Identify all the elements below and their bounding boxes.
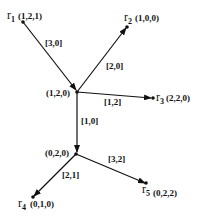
node-label-r3: r3(2,2,0)	[156, 90, 190, 106]
tree-diagram: r1(1,2,1) r2(1,0,0) r3(2,2,0) r4(0,1,0) …	[0, 0, 202, 217]
edge-label-n1-r3: [1,2]	[104, 97, 121, 107]
edge-label-n2-r4: [2,1]	[62, 170, 79, 180]
node-label-r4: r4(0,1,0)	[18, 196, 54, 212]
node-labels: r1(1,2,1) r2(1,0,0) r3(2,2,0) r4(0,1,0) …	[7, 8, 190, 212]
edge-label-n2-r5: [3,2]	[108, 154, 125, 164]
node-label-n2: (0,2,0)	[45, 148, 69, 158]
node-dot-r3	[151, 96, 155, 100]
node-label-n1: (1,2,0)	[46, 88, 70, 98]
node-dots	[21, 20, 155, 199]
node-dot-n2	[74, 152, 78, 156]
edge-r1-to-n1	[23, 22, 76, 90]
node-label-r2: r2(1,0,0)	[124, 10, 159, 26]
edge-label-n1-n2: [1,0]	[81, 116, 98, 126]
edges	[23, 22, 151, 196]
edge-label-r1-n1: [3,0]	[45, 38, 62, 48]
node-label-r5: r5(0,2,2)	[142, 182, 177, 198]
edge-n1-to-r2	[77, 28, 126, 92]
diagram-canvas: r1(1,2,1) r2(1,0,0) r3(2,2,0) r4(0,1,0) …	[0, 0, 202, 217]
edge-label-n1-r2: [2,0]	[106, 61, 123, 71]
edge-labels: [3,0] [2,0] [1,2] [1,0] [2,1] [3,2]	[45, 38, 125, 180]
node-dot-n1	[75, 90, 79, 94]
